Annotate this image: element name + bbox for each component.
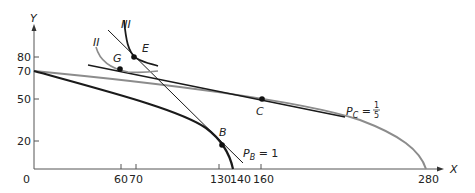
- y-tick-label-70: 70: [17, 65, 31, 78]
- pc-fraction-numerator: 1: [374, 101, 379, 110]
- label-c: C: [256, 105, 264, 118]
- black-ppf-curve: [34, 71, 233, 169]
- production-possibility-diagram: Y X 80 70 50 20 0 60 70 130 140 160 280 …: [0, 0, 475, 193]
- gray-frontier-curve: [34, 71, 426, 169]
- y-axis-arrow-icon: [32, 24, 37, 31]
- y-tick-label-20: 20: [17, 135, 31, 148]
- point-e: [131, 54, 137, 60]
- pb-label: PB = 1: [243, 147, 278, 162]
- y-tick-label-80: 80: [17, 51, 31, 64]
- price-line-pc: [88, 65, 345, 117]
- y-axis-label: Y: [30, 12, 38, 25]
- x-tick-label-280: 280: [418, 173, 439, 186]
- x-tick-label-160: 160: [253, 173, 274, 186]
- x-axis-arrow-icon: [437, 167, 444, 172]
- x-axis-label: X: [449, 163, 458, 176]
- pc-label: PC =: [346, 105, 371, 120]
- point-b: [219, 142, 225, 148]
- diagram: Y X 80 70 50 20 0 60 70 130 140 160 280 …: [0, 0, 475, 193]
- x-tick-label-130: 130: [210, 173, 231, 186]
- y-tick-label-50: 50: [17, 93, 31, 106]
- label-curve-iii: III: [121, 18, 131, 31]
- x-tick-label-70: 70: [129, 173, 143, 186]
- point-c: [259, 96, 265, 102]
- x-tick-label-140: 140: [230, 173, 251, 186]
- label-curve-ii: II: [93, 36, 100, 49]
- point-g: [117, 66, 123, 72]
- x-tick-label-60: 60: [114, 173, 128, 186]
- label-g: G: [113, 52, 122, 65]
- origin-label: 0: [23, 173, 30, 186]
- pc-fraction-denominator: 5: [374, 111, 379, 120]
- label-b: B: [219, 126, 227, 139]
- label-e: E: [142, 42, 149, 55]
